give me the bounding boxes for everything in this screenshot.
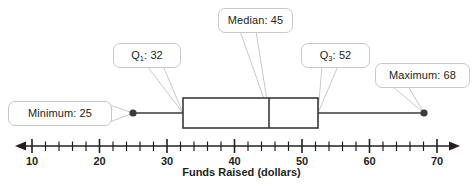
q1-callout-label: Q1: 32 — [131, 50, 163, 61]
axis-arrow-left — [15, 142, 26, 151]
axis-title-text: Funds Raised (dollars) — [174, 166, 301, 178]
interquartile-box — [183, 98, 318, 128]
q3-subscript: 3 — [328, 54, 332, 63]
q1-callout: Q1: 32 — [113, 43, 181, 68]
minimum-point — [129, 109, 136, 116]
minimum-callout-label: Minimum: 25 — [28, 108, 92, 119]
maximum-callout-label: Maximum: 68 — [389, 70, 456, 81]
axis-title: Funds Raised (dollars) — [0, 166, 475, 178]
median-callout: Median: 45 — [218, 8, 293, 33]
median-callout-label: Median: 45 — [228, 15, 283, 26]
q1-suffix: : 32 — [144, 49, 163, 61]
q3-callout-label: Q3: 52 — [320, 50, 352, 61]
q1-subscript: 1 — [140, 54, 144, 63]
axis-arrow-right — [449, 142, 460, 151]
minimum-callout: Minimum: 25 — [8, 101, 112, 126]
q3-prefix: Q — [320, 49, 329, 61]
q1-prefix: Q — [131, 49, 140, 61]
maximum-point — [420, 109, 427, 116]
q3-suffix: : 52 — [333, 49, 352, 61]
maximum-callout: Maximum: 68 — [375, 63, 470, 88]
q3-callout: Q3: 52 — [301, 43, 370, 68]
box-plot-figure: 10 20 30 40 50 60 70 Funds Raised (dolla… — [0, 0, 475, 189]
number-line-axis — [15, 139, 460, 153]
